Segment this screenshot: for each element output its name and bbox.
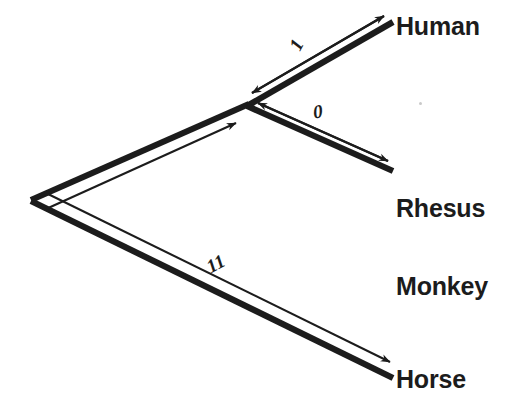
thin-measure-lines [46, 16, 390, 362]
measure-line-horse-toward-tip [48, 194, 390, 362]
thick-line-root-to-horse [31, 201, 393, 378]
measure-line-root-to-junction [46, 123, 236, 209]
taxon-label-horse: Horse [396, 366, 466, 392]
measure-line-human-toward-junction [252, 16, 384, 93]
scan-artifact-speck [419, 102, 422, 105]
taxon-label-rhesus-line1: Rhesus [396, 195, 488, 221]
thick-line-root-to-junction [31, 104, 249, 200]
thick-line-junction-to-human [247, 22, 393, 106]
taxon-label-rhesus-line2: Monkey [396, 273, 488, 299]
taxon-label-rhesus-monkey: Rhesus Monkey [396, 143, 488, 351]
taxon-label-human: Human [396, 13, 480, 39]
thick-branch-lines [31, 22, 393, 378]
phylogenetic-tree-figure: Human Rhesus Monkey Horse 1 0 11 [0, 0, 517, 416]
